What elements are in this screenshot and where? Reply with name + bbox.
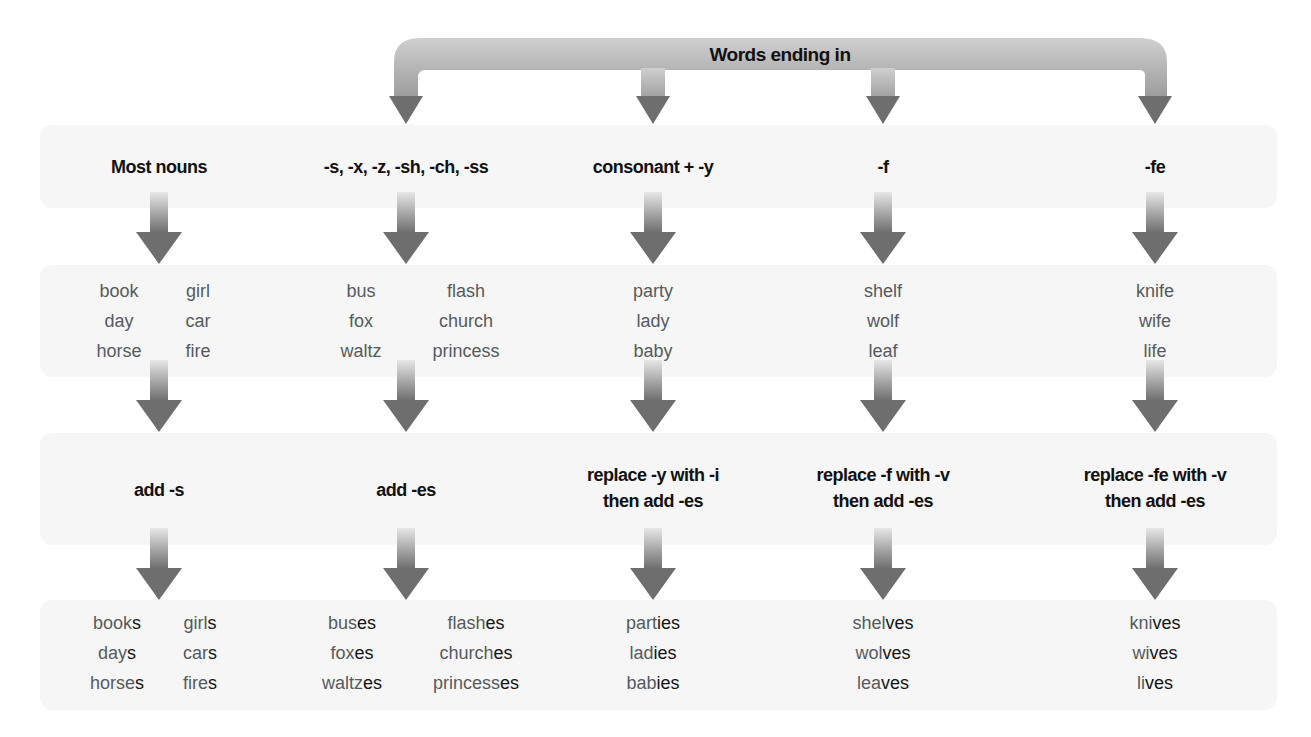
example-word: church xyxy=(432,306,499,336)
examples-fe: knife wife life xyxy=(1136,276,1174,366)
example-word: day xyxy=(96,306,141,336)
plural-word: shelves xyxy=(852,608,913,638)
down-arrows xyxy=(136,192,1178,600)
rule-most-nouns: add -s xyxy=(134,477,184,503)
example-word: girl xyxy=(185,276,210,306)
examples-sibilant-left: bus fox waltz xyxy=(340,276,381,366)
plural-word: flashes xyxy=(433,608,519,638)
arrow-head-icon xyxy=(636,96,670,124)
arrow-head-icon xyxy=(1138,96,1172,124)
plural-word: fires xyxy=(183,668,217,698)
example-word: knife xyxy=(1136,276,1174,306)
examples-most-nouns-left: book day horse xyxy=(96,276,141,366)
plural-word: princesses xyxy=(433,668,519,698)
example-word: shelf xyxy=(864,276,902,306)
plural-word: wolves xyxy=(852,638,913,668)
plural-word: lives xyxy=(1129,668,1180,698)
plurals-consonant-y: parties ladies babies xyxy=(626,608,680,698)
plural-word: foxes xyxy=(322,638,382,668)
plural-word: babies xyxy=(626,668,680,698)
diagram-title: Words ending in xyxy=(710,44,851,66)
plural-word: girls xyxy=(183,608,217,638)
plural-word: horses xyxy=(90,668,144,698)
header-most-nouns: Most nouns xyxy=(111,156,207,178)
rule-f: replace -f with -v then add -es xyxy=(816,462,949,514)
plural-word: wives xyxy=(1129,638,1180,668)
plurals-fe: knives wives lives xyxy=(1129,608,1180,698)
example-word: horse xyxy=(96,336,141,366)
example-word: lady xyxy=(633,306,673,336)
example-word: flash xyxy=(432,276,499,306)
examples-sibilant-right: flash church princess xyxy=(432,276,499,366)
plurals-sibilant-left: buses foxes waltzes xyxy=(322,608,382,698)
plural-word: churches xyxy=(433,638,519,668)
header-fe: -fe xyxy=(1145,156,1166,178)
examples-most-nouns-right: girl car fire xyxy=(185,276,210,366)
example-word: bus xyxy=(340,276,381,306)
plural-word: parties xyxy=(626,608,680,638)
plural-word: knives xyxy=(1129,608,1180,638)
example-word: waltz xyxy=(340,336,381,366)
example-word: car xyxy=(185,306,210,336)
examples-consonant-y: party lady baby xyxy=(633,276,673,366)
example-word: baby xyxy=(633,336,673,366)
plural-word: ladies xyxy=(626,638,680,668)
plural-word: cars xyxy=(183,638,217,668)
example-word: leaf xyxy=(864,336,902,366)
examples-f: shelf wolf leaf xyxy=(864,276,902,366)
example-word: book xyxy=(96,276,141,306)
plurals-f: shelves wolves leaves xyxy=(852,608,913,698)
arrow-head-icon xyxy=(866,96,900,124)
arrow-head-icon xyxy=(389,96,423,124)
plural-word: books xyxy=(90,608,144,638)
header-sibilant: -s, -x, -z, -sh, -ch, -ss xyxy=(324,156,489,178)
plurals-most-nouns-left: books days horses xyxy=(90,608,144,698)
header-consonant-y: consonant + -y xyxy=(593,156,714,178)
example-word: party xyxy=(633,276,673,306)
plural-word: days xyxy=(90,638,144,668)
rule-sibilant: add -es xyxy=(376,477,436,503)
example-word: princess xyxy=(432,336,499,366)
plural-word: waltzes xyxy=(322,668,382,698)
example-word: fox xyxy=(340,306,381,336)
rule-fe: replace -fe with -v then add -es xyxy=(1084,462,1227,514)
plural-word: leaves xyxy=(852,668,913,698)
example-word: life xyxy=(1136,336,1174,366)
plurals-sibilant-right: flashes churches princesses xyxy=(433,608,519,698)
plurals-most-nouns-right: girls cars fires xyxy=(183,608,217,698)
example-word: fire xyxy=(185,336,210,366)
example-word: wolf xyxy=(864,306,902,336)
plural-word: buses xyxy=(322,608,382,638)
rule-consonant-y: replace -y with -i then add -es xyxy=(587,462,719,514)
example-word: wife xyxy=(1136,306,1174,336)
header-f: -f xyxy=(878,156,889,178)
